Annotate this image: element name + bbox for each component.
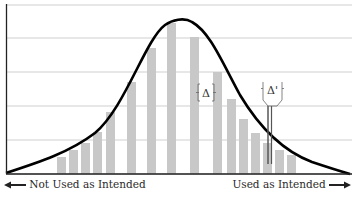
- bar: [127, 82, 136, 174]
- chart-canvas: Δ Δ': [0, 0, 355, 178]
- bar: [167, 23, 176, 174]
- bar: [190, 37, 199, 174]
- right-label-text: Used as Intended: [232, 178, 325, 190]
- used-as-intended-label: Used as Intended: [232, 178, 351, 190]
- bar: [81, 143, 90, 174]
- right-arrow-icon: [329, 181, 351, 189]
- gridlines: [6, 5, 352, 174]
- bar: [251, 133, 260, 174]
- not-used-as-intended-label: Not Used as Intended: [4, 178, 146, 190]
- left-label-text: Not Used as Intended: [29, 178, 145, 190]
- bar: [69, 150, 78, 174]
- delta-prime-label: Δ': [267, 84, 278, 97]
- bar: [57, 157, 66, 174]
- bar: [275, 150, 284, 174]
- left-arrow-icon: [4, 181, 26, 189]
- bar: [147, 48, 156, 174]
- bar: [239, 119, 248, 174]
- axes: [6, 4, 352, 174]
- bar: [287, 155, 296, 174]
- bar: [227, 99, 236, 174]
- delta-label: Δ: [202, 87, 210, 100]
- bars: [57, 23, 296, 174]
- bar: [93, 132, 102, 174]
- distribution-curve: [6, 19, 350, 174]
